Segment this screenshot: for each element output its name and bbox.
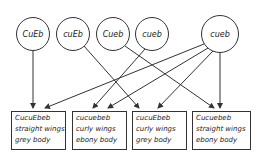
offspring-wings: straight wings bbox=[196, 124, 247, 135]
gamete-circle-3: Cueb bbox=[96, 17, 130, 51]
offspring-genotype: cucuEbeb bbox=[136, 113, 183, 124]
arrow-cueb2-to-offspring3 bbox=[84, 46, 139, 108]
gamete-label: cueb bbox=[210, 30, 229, 39]
offspring-body: grey body bbox=[15, 135, 62, 146]
arrow-cueb5-to-offspring2 bbox=[108, 48, 208, 108]
offspring-body: grey body bbox=[136, 135, 183, 146]
offspring-wings: straight wings bbox=[15, 124, 62, 135]
gamete-circle-4: cueb bbox=[135, 17, 169, 51]
arrow-cueb3-to-offspring4 bbox=[125, 46, 214, 108]
offspring-wings: curly wings bbox=[136, 124, 183, 135]
gamete-circle-1: CuEb bbox=[16, 17, 50, 51]
gamete-label: CuEb bbox=[23, 30, 44, 39]
gamete-label: cuEb bbox=[63, 30, 83, 39]
cross-diagram: CuEb cuEb Cueb cueb cueb CucuEbeb straig… bbox=[0, 0, 259, 160]
gamete-label: Cueb bbox=[103, 30, 124, 39]
offspring-box-3: cucuEbeb curly wings grey body bbox=[132, 111, 187, 150]
offspring-body: ebony body bbox=[76, 135, 123, 146]
gamete-circle-2: cuEb bbox=[56, 17, 90, 51]
offspring-box-2: cucuebeb curly wings ebony body bbox=[72, 111, 127, 150]
offspring-body: ebony body bbox=[196, 135, 247, 146]
offspring-box-1: CucuEbeb straight wings grey body bbox=[11, 111, 66, 150]
offspring-genotype: CucuEbeb bbox=[15, 113, 62, 124]
offspring-genotype: cucuebeb bbox=[76, 113, 123, 124]
offspring-box-4: Cucuebeb straight wings ebony body bbox=[192, 111, 251, 150]
gamete-label: cueb bbox=[142, 30, 161, 39]
offspring-wings: curly wings bbox=[76, 124, 123, 135]
gamete-circle-5: cueb bbox=[201, 15, 239, 53]
offspring-genotype: Cucuebeb bbox=[196, 113, 247, 124]
